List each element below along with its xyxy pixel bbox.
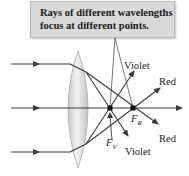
chromatic-aberration-diagram: Rays of different wavelengths focus at d… <box>0 0 189 176</box>
axis-arrow <box>176 105 183 111</box>
label-violet-top: Violet <box>124 60 150 71</box>
label-focal-red: FR <box>131 113 142 129</box>
bottom-ray-red <box>86 88 160 144</box>
focal-point-red <box>131 106 136 111</box>
label-red-top: Red <box>159 76 176 87</box>
top-ray-violet <box>86 72 128 136</box>
label-focal-violet: FV <box>106 137 117 153</box>
focal-point-violet <box>108 106 113 111</box>
focal-red-subscript: R <box>137 119 141 127</box>
callout-line-2: focus at different points. <box>40 19 174 32</box>
incident-arrow-middle <box>33 105 40 111</box>
label-violet-bottom: Violet <box>125 146 151 157</box>
callout-pointer-line-1 <box>110 38 115 108</box>
focal-violet-pointer-head <box>107 112 113 118</box>
incident-arrow-top <box>33 61 40 67</box>
callout-box: Rays of different wavelengths focus at d… <box>30 1 175 38</box>
focal-violet-subscript: V <box>112 143 116 151</box>
callout-line-1: Rays of different wavelengths <box>40 6 174 19</box>
callout-pointer-line-2 <box>115 38 133 108</box>
incident-arrow-bottom <box>33 149 40 155</box>
label-red-bottom: Red <box>159 133 176 144</box>
